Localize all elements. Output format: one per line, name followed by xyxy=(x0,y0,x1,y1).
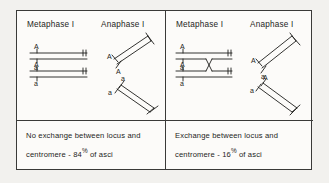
anaphase-x-lower-tick-1 xyxy=(256,84,261,91)
allele-label-ana-lower-1: a xyxy=(108,89,112,96)
caption-prefix: centromere - xyxy=(26,149,71,158)
caption-line-2-x: centromere - 16% of asci xyxy=(175,144,306,162)
anaphase-upper-strand-1 xyxy=(114,36,148,59)
anaphase-upper-tick-1 xyxy=(112,55,118,62)
allele-label-ana-x-lower-2: A xyxy=(263,74,268,81)
caption-suffix-x: of asci xyxy=(239,149,262,158)
caption-line-1-x: Exchange between locus and xyxy=(175,129,306,144)
allele-label-meta-a2-x: a xyxy=(180,80,184,87)
caption-prefix-x: centromere - xyxy=(175,149,220,158)
caption-suffix: of asci xyxy=(90,149,113,158)
anaphase-lower-kinetochore-a xyxy=(150,106,158,112)
anaphase-upper-strand-2 xyxy=(117,41,151,64)
allele-label-ana-x-lower-1: a xyxy=(250,87,254,94)
percent-symbol: % xyxy=(82,147,88,154)
anaphase-lower-strand-1 xyxy=(117,89,150,112)
percent-value: 84 xyxy=(73,149,82,158)
panel-exchange-diagram-area: Metaphase I Anaphase I xyxy=(166,11,313,121)
allele-label-meta-a2: a xyxy=(34,80,38,87)
caption-exchange: Exchange between locus and centromere - … xyxy=(175,129,306,162)
panel-no-exchange-diagram-area: Metaphase I Anaphase I xyxy=(17,11,165,121)
caption-line-1: No exchange between locus and xyxy=(26,129,158,144)
anaphase-upper-tick-2 xyxy=(116,61,121,68)
allele-label-meta-a1: a xyxy=(34,64,38,71)
anaphase-x-upper-strand-2 xyxy=(262,41,296,68)
allele-label-ana-upper-2: A xyxy=(116,68,121,75)
caption-no-exchange: No exchange between locus and centromere… xyxy=(26,129,158,162)
anaphase-x-lower-strand-1 xyxy=(258,87,292,112)
allele-label-meta-A1: A xyxy=(34,43,39,50)
panel-exchange: Metaphase I Anaphase I xyxy=(165,11,313,169)
panel-no-exchange-caption-area: No exchange between locus and centromere… xyxy=(17,121,165,169)
percent-value-x: 16 xyxy=(222,149,231,158)
allele-label-meta-a1-x: a xyxy=(180,64,184,71)
percent-symbol-x: % xyxy=(231,147,237,154)
anaphase-lower-strand-2 xyxy=(121,85,154,108)
allele-label-meta-A1-x: A xyxy=(180,43,185,50)
anaphase-x-lower-strand-2 xyxy=(263,83,297,108)
panel-no-exchange: Metaphase I Anaphase I xyxy=(17,11,165,169)
caption-line-2: centromere - 84% of asci xyxy=(26,144,158,162)
panel-exchange-caption-area: Exchange between locus and centromere - … xyxy=(166,121,313,169)
exchange-diagram: A A a a A a a A xyxy=(166,11,314,121)
allele-label-ana-lower-2: a xyxy=(121,75,125,82)
figure-frame: Metaphase I Anaphase I xyxy=(16,10,312,170)
allele-label-ana-x-upper-1: A xyxy=(251,57,256,64)
no-exchange-diagram: A A a a A A a a xyxy=(17,11,165,121)
anaphase-x-upper-strand-1 xyxy=(258,36,292,63)
figure-root: Metaphase I Anaphase I xyxy=(0,0,329,183)
allele-label-ana-upper-1: A xyxy=(107,53,112,60)
